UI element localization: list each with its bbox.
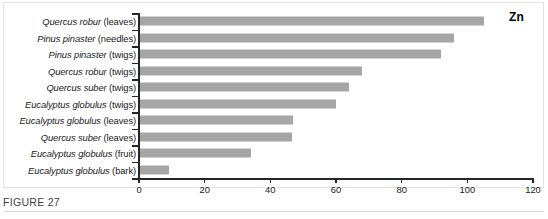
bar — [139, 66, 362, 75]
bar-row: Eucalyptus globulus (fruit) — [0, 145, 548, 162]
bar — [139, 165, 169, 174]
species-name: Eucalyptus globulus — [25, 98, 107, 109]
species-name: Eucalyptus globulus — [19, 115, 101, 126]
species-name: Quercus suber — [46, 82, 106, 93]
species-name: Eucalyptus globulus — [31, 148, 113, 159]
bar-chart-plot-area: Quercus robur (leaves)Pinus pinaster (ne… — [0, 0, 548, 190]
y-axis-tick — [132, 129, 139, 131]
x-axis-tick — [532, 178, 534, 183]
bar-row: Eucalyptus globulus (twigs) — [0, 96, 548, 113]
x-axis-tick — [467, 178, 469, 183]
y-axis-tick — [132, 30, 139, 32]
plant-part-name: (leaves) — [101, 115, 136, 126]
x-axis-tick-label: 80 — [396, 184, 406, 195]
bar-row: Quercus suber (leaves) — [0, 129, 548, 146]
y-axis-tick — [132, 79, 139, 81]
bar — [139, 132, 292, 141]
bar-row: Quercus robur (twigs) — [0, 63, 548, 80]
species-name: Quercus robur — [48, 65, 107, 76]
category-label: Eucalyptus globulus (fruit) — [31, 148, 136, 159]
category-label: Eucalyptus globulus (bark) — [28, 164, 136, 175]
element-symbol-label: Zn — [509, 10, 524, 24]
bar — [139, 17, 484, 26]
bar — [139, 99, 336, 108]
x-axis-tick — [270, 178, 272, 183]
bar — [139, 149, 251, 158]
species-name: Quercus suber — [41, 131, 101, 142]
x-axis-tick — [401, 178, 403, 183]
bar — [139, 116, 293, 125]
category-label: Quercus suber (twigs) — [46, 82, 136, 93]
bar-row: Pinus pinaster (twigs) — [0, 46, 548, 63]
y-axis-tick — [132, 96, 139, 98]
x-axis-tick-label: 60 — [331, 184, 341, 195]
category-label: Eucalyptus globulus (leaves) — [19, 115, 136, 126]
species-name: Pinus pinaster — [37, 32, 95, 43]
bar-row: Pinus pinaster (needles) — [0, 30, 548, 47]
species-name: Eucalyptus globulus — [28, 164, 110, 175]
figure-caption: FIGURE 27 — [3, 196, 544, 211]
x-axis-tick — [335, 178, 337, 183]
category-label: Quercus robur (leaves) — [42, 16, 136, 27]
y-axis-tick — [132, 162, 139, 164]
plant-part-name: (leaves) — [101, 16, 136, 27]
plant-part-name: (leaves) — [101, 131, 136, 142]
y-axis-tick — [132, 112, 139, 114]
bar — [139, 33, 454, 42]
category-label: Quercus robur (twigs) — [48, 65, 136, 76]
category-label: Eucalyptus globulus (twigs) — [25, 98, 136, 109]
x-axis-tick — [204, 178, 206, 183]
category-label: Pinus pinaster (twigs) — [49, 49, 136, 60]
plant-part-name: (twigs) — [107, 82, 136, 93]
x-axis-tick-label: 100 — [460, 184, 476, 195]
x-axis-tick-label: 40 — [265, 184, 275, 195]
x-axis-tick — [138, 178, 140, 183]
bar — [139, 50, 441, 59]
figure-container: Quercus robur (leaves)Pinus pinaster (ne… — [0, 0, 548, 219]
category-label: Quercus suber (leaves) — [41, 131, 136, 142]
y-axis-tick — [132, 46, 139, 48]
bar-row: Quercus suber (twigs) — [0, 79, 548, 96]
bar — [139, 83, 349, 92]
y-axis-tick — [132, 145, 139, 147]
caption-divider — [3, 211, 544, 212]
plant-part-name: (twigs) — [107, 98, 136, 109]
species-name: Quercus robur — [42, 16, 101, 27]
bar-row: Quercus robur (leaves) — [0, 13, 548, 30]
bar-row: Eucalyptus globulus (bark) — [0, 162, 548, 179]
x-axis-tick-label: 120 — [525, 184, 541, 195]
plant-part-name: (bark) — [110, 164, 136, 175]
plant-part-name: (needles) — [95, 32, 136, 43]
category-label: Pinus pinaster (needles) — [37, 32, 136, 43]
species-name: Pinus pinaster — [49, 49, 107, 60]
x-axis-tick-label: 0 — [136, 184, 141, 195]
y-axis-tick — [132, 63, 139, 65]
plant-part-name: (twigs) — [107, 65, 136, 76]
figure-caption-block: FIGURE 27 — [3, 196, 544, 212]
x-axis-tick-label: 20 — [199, 184, 209, 195]
plant-part-name: (twigs) — [107, 49, 136, 60]
y-axis-tick — [132, 13, 139, 15]
bar-row: Eucalyptus globulus (leaves) — [0, 112, 548, 129]
plant-part-name: (fruit) — [112, 148, 136, 159]
